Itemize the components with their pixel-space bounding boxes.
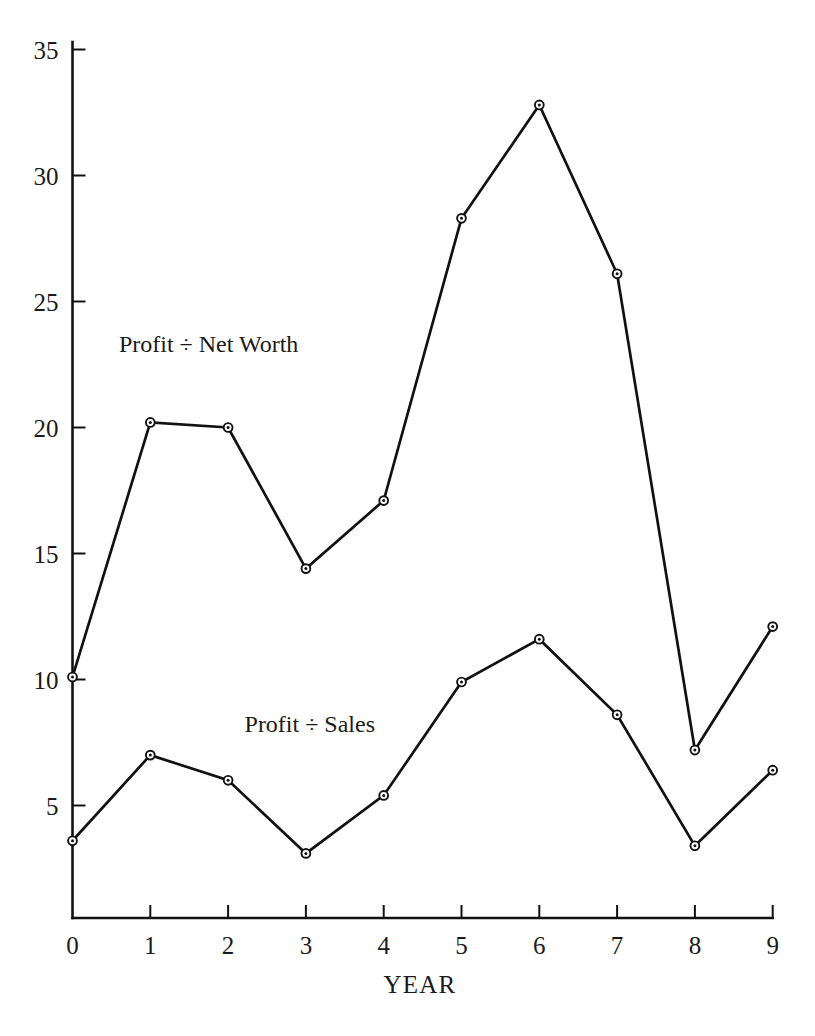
data-point-center-dot xyxy=(149,421,152,424)
data-point-center-dot xyxy=(616,272,619,275)
data-point-center-dot xyxy=(227,779,230,782)
x-tick-label-2: 2 xyxy=(222,932,235,959)
series-line-1 xyxy=(73,639,773,853)
series-annotation-0: Profit ÷ Net Worth xyxy=(119,331,298,357)
data-point-center-dot xyxy=(71,675,74,678)
y-tick-label-15: 15 xyxy=(34,541,59,568)
data-point-center-dot xyxy=(616,713,619,716)
x-tick-label-6: 6 xyxy=(533,932,546,959)
y-tick-label-20: 20 xyxy=(34,415,59,442)
y-tick-label-25: 25 xyxy=(34,289,59,316)
data-point-center-dot xyxy=(227,426,230,429)
x-tick-label-0: 0 xyxy=(66,932,79,959)
data-point-center-dot xyxy=(693,749,696,752)
data-point-center-dot xyxy=(149,754,152,757)
y-tick-label-35: 35 xyxy=(34,37,59,64)
data-point-center-dot xyxy=(304,567,307,570)
data-point-center-dot xyxy=(693,844,696,847)
x-axis-title: YEAR xyxy=(384,971,457,998)
chart-container: 5101520253035 0123456789 Profit ÷ Net Wo… xyxy=(0,0,815,1036)
series-markers-group xyxy=(68,101,777,858)
x-axis-ticks xyxy=(150,905,772,918)
series-annotations-group: Profit ÷ Net WorthProfit ÷ Sales xyxy=(119,331,375,738)
x-tick-label-1: 1 xyxy=(144,932,157,959)
series-line-0 xyxy=(73,105,773,750)
data-point-center-dot xyxy=(71,839,74,842)
x-tick-label-7: 7 xyxy=(611,932,624,959)
data-point-center-dot xyxy=(382,794,385,797)
data-point-center-dot xyxy=(771,625,774,628)
data-point-center-dot xyxy=(538,103,541,106)
series-annotation-1: Profit ÷ Sales xyxy=(245,711,376,737)
x-axis-tick-labels: 0123456789 xyxy=(66,932,779,959)
line-chart-plot: 5101520253035 0123456789 Profit ÷ Net Wo… xyxy=(0,0,815,1036)
x-tick-label-8: 8 xyxy=(689,932,702,959)
y-tick-label-10: 10 xyxy=(34,667,59,694)
y-axis-ticks xyxy=(73,50,86,806)
data-point-center-dot xyxy=(382,499,385,502)
x-tick-label-9: 9 xyxy=(766,932,779,959)
y-axis-tick-labels: 5101520253035 xyxy=(34,37,59,820)
x-tick-label-3: 3 xyxy=(300,932,313,959)
y-tick-label-30: 30 xyxy=(34,163,59,190)
data-point-center-dot xyxy=(771,769,774,772)
y-tick-label-5: 5 xyxy=(46,793,59,820)
data-point-center-dot xyxy=(460,217,463,220)
x-tick-label-4: 4 xyxy=(377,932,390,959)
data-point-center-dot xyxy=(460,681,463,684)
x-tick-label-5: 5 xyxy=(455,932,468,959)
series-lines-group xyxy=(73,105,773,853)
data-point-center-dot xyxy=(304,852,307,855)
data-point-center-dot xyxy=(538,638,541,641)
